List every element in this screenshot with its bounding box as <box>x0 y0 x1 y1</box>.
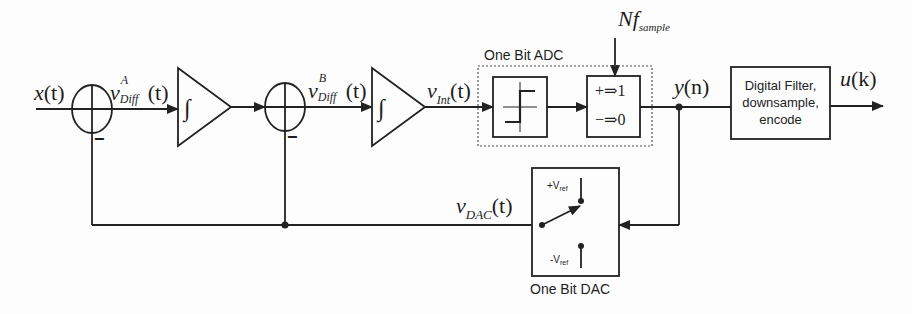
switch-contact-plus <box>578 198 584 204</box>
integral-icon: ∫ <box>184 96 191 120</box>
quantizer-minus-rule: −⇒0 <box>595 112 625 128</box>
junction-y <box>676 104 683 111</box>
minus-vref-label: -Vref <box>550 255 568 266</box>
switch-pivot <box>539 222 545 228</box>
quantizer-plus-rule: +⇒1 <box>595 83 625 99</box>
integral-icon: ∫ <box>378 96 385 120</box>
u-signal-label: u(k) <box>840 68 877 90</box>
adc-dashed-region <box>478 66 652 146</box>
diagram-wiring <box>0 0 912 314</box>
dac-label: One Bit DAC <box>530 282 610 296</box>
diff-a-signal-label: vADiff(t) <box>110 82 169 104</box>
plus-vref-label: +Vref <box>547 181 568 192</box>
digital-filter-label: Digital Filter, downsample, encode <box>731 77 830 128</box>
clock-label: Nfsample <box>618 8 670 33</box>
summer-2-minus-sign: − <box>287 128 298 146</box>
switch-contact-minus <box>578 243 584 249</box>
y-signal-label: y(n) <box>674 76 709 98</box>
dac-signal-label: vDAC(t) <box>456 195 513 221</box>
diff-b-signal-label: vBDiff(t) <box>308 80 367 102</box>
dac-box <box>532 168 619 276</box>
int-signal-label: vInt(t) <box>427 80 471 106</box>
adc-label: One Bit ADC <box>484 48 563 62</box>
summer-1-minus-sign: − <box>94 130 105 148</box>
input-signal-label: x(t) <box>34 82 65 104</box>
junction-feedback <box>282 222 289 229</box>
sigma-delta-diagram: ∫ ∫ − − x(t) vADiff(t) vBDiff(t) vInt(t)… <box>0 0 912 314</box>
